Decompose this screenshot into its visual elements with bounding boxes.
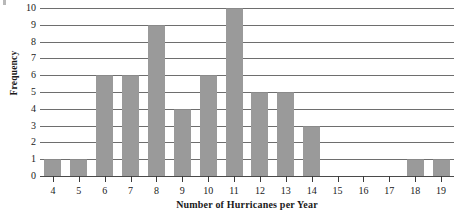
bar-12 [251,92,268,176]
y-tick-label-6: 6 [16,70,36,80]
bar-5 [70,159,87,176]
x-tick-13 [286,176,287,182]
bar-8 [148,25,165,176]
x-tick-label-4: 4 [50,184,55,198]
x-tick-12 [260,176,261,182]
x-tick-label-11: 11 [229,184,239,198]
x-tick-label-8: 8 [154,184,159,198]
bar-7 [122,75,139,176]
x-tick-label-17: 17 [384,184,394,198]
x-axis-ticks [40,176,454,184]
bar-6 [96,75,113,176]
bar-11 [226,8,243,176]
x-tick-label-7: 7 [128,184,133,198]
x-tick-9 [182,176,183,182]
bar-14 [303,126,320,176]
x-axis-title: Number of Hurricanes per Year [40,199,454,210]
x-tick-11 [234,176,235,182]
bar-13 [277,92,294,176]
x-tick-4 [53,176,54,182]
y-tick-label-10: 10 [16,3,36,13]
x-tick-label-13: 13 [281,184,291,198]
plot-area [40,8,454,176]
x-tick-label-14: 14 [307,184,317,198]
bar-4 [44,159,61,176]
x-tick-label-10: 10 [203,184,213,198]
x-tick-7 [131,176,132,182]
x-tick-label-15: 15 [333,184,343,198]
x-tick-label-5: 5 [76,184,81,198]
x-tick-16 [363,176,364,182]
x-tick-label-12: 12 [255,184,265,198]
y-tick-label-0: 0 [16,171,36,181]
y-axis-tick-labels: 012345678910 [16,8,36,176]
x-tick-8 [156,176,157,182]
bar-9 [174,109,191,176]
x-tick-17 [389,176,390,182]
x-tick-label-9: 9 [180,184,185,198]
bar-18 [407,159,424,176]
x-tick-14 [312,176,313,182]
y-tick-label-5: 5 [16,87,36,97]
x-tick-label-19: 19 [436,184,446,198]
corner-artifact-mark [3,0,6,5]
x-axis-tick-labels: 45678910111213141516171819 [40,184,454,198]
y-tick-label-4: 4 [16,104,36,114]
y-tick-label-3: 3 [16,121,36,131]
bar-series [40,8,454,176]
x-tick-label-6: 6 [102,184,107,198]
bar-10 [200,75,217,176]
y-tick-label-1: 1 [16,154,36,164]
x-tick-18 [415,176,416,182]
y-tick-label-2: 2 [16,137,36,147]
x-tick-label-16: 16 [358,184,368,198]
x-tick-label-18: 18 [410,184,420,198]
x-tick-19 [441,176,442,182]
x-tick-6 [105,176,106,182]
x-tick-10 [208,176,209,182]
y-tick-label-8: 8 [16,37,36,47]
x-tick-15 [338,176,339,182]
y-tick-label-7: 7 [16,53,36,63]
y-tick-label-9: 9 [16,20,36,30]
bar-19 [433,159,450,176]
histogram-chart: Frequency 012345678910 45678910111213141… [0,0,463,217]
x-tick-5 [79,176,80,182]
